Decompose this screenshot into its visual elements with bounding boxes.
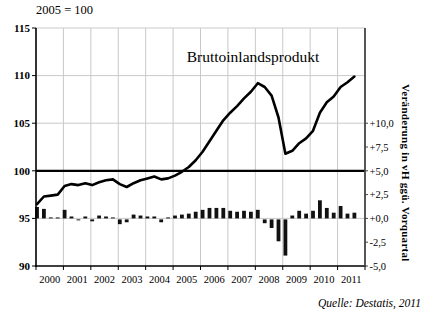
qoq-change-bar: [70, 216, 74, 218]
qoq-change-bar: [249, 212, 253, 219]
index-note: 2005 = 100: [36, 3, 93, 18]
qoq-change-bar: [132, 215, 136, 219]
year-tick-label: 2007: [231, 274, 252, 285]
qoq-change-bar: [256, 210, 260, 219]
year-tick-label: 2004: [149, 274, 171, 285]
qoq-change-bar: [194, 212, 198, 219]
qoq-change-bar: [152, 216, 156, 218]
qoq-change-bar: [277, 219, 281, 241]
year-tick-label: 2001: [67, 274, 88, 285]
year-tick-label: 2006: [204, 274, 225, 285]
qoq-change-bar: [42, 209, 46, 219]
year-tick-label: 2002: [94, 274, 115, 285]
left-tick-label: 95: [19, 212, 31, 224]
year-tick-label: 2005: [176, 274, 197, 285]
qoq-change-bar: [325, 208, 329, 218]
qoq-change-bar: [173, 216, 177, 219]
year-tick-label: 2011: [341, 274, 362, 285]
right-tick-label: +0,0: [370, 213, 389, 224]
qoq-change-bar: [63, 210, 67, 219]
right-axis-title: Veränderung in vH ggü. Vorquartal: [400, 84, 412, 300]
left-tick-label: 115: [14, 22, 30, 34]
qoq-change-bar: [104, 216, 108, 218]
left-tick-label: 105: [14, 117, 31, 129]
qoq-change-bar: [208, 208, 212, 218]
qoq-change-bar: [83, 216, 87, 218]
year-tick-label: 2000: [39, 274, 60, 285]
qoq-change-bar: [339, 206, 343, 218]
plot-svg: 2000200120022003200420052006200720082009…: [0, 0, 424, 310]
qoq-change-bar: [118, 219, 122, 224]
qoq-change-bar: [166, 217, 170, 218]
gdp-index-line: [37, 77, 354, 205]
qoq-change-bar: [228, 211, 232, 219]
right-tick-label: -2,5: [370, 237, 387, 248]
year-tick-label: 2008: [259, 274, 280, 285]
qoq-change-bar: [270, 219, 274, 228]
qoq-change-bar: [304, 214, 308, 219]
qoq-change-bar: [97, 216, 101, 219]
right-tick-label: +7,5: [370, 142, 389, 153]
qoq-change-bar: [297, 211, 301, 219]
year-tick-label: 2009: [286, 274, 307, 285]
right-tick-label: +2,5: [370, 189, 389, 200]
qoq-change-bar: [284, 219, 288, 255]
qoq-change-bar: [180, 215, 184, 219]
qoq-change-bar: [146, 216, 150, 218]
right-tick-label: +5,0: [370, 166, 389, 177]
source-note: Quelle: Destatis, 2011: [318, 297, 421, 309]
left-tick-label: 100: [14, 165, 31, 177]
qoq-change-bar: [111, 217, 115, 218]
qoq-change-bar: [353, 213, 357, 219]
qoq-change-bar: [263, 219, 267, 223]
qoq-change-bar: [139, 216, 143, 219]
left-tick-label: 110: [14, 69, 30, 81]
qoq-change-bar: [318, 200, 322, 218]
qoq-change-bar: [201, 210, 205, 219]
qoq-change-bar: [56, 217, 60, 218]
year-tick-label: 2010: [313, 274, 334, 285]
chart-title: Bruttoinlandsprodukt: [168, 48, 338, 66]
right-tick-label: -5,0: [370, 261, 387, 272]
qoq-change-bar: [215, 208, 219, 218]
qoq-change-bar: [332, 213, 336, 219]
qoq-change-bar: [159, 219, 163, 222]
year-tick-label: 2003: [121, 274, 142, 285]
qoq-change-bar: [346, 214, 350, 219]
qoq-change-bar: [235, 212, 239, 219]
right-tick-label: +10,0: [370, 118, 394, 129]
qoq-change-bar: [77, 219, 81, 220]
qoq-change-bar: [242, 211, 246, 219]
qoq-change-bar: [221, 208, 225, 218]
qoq-change-bar: [90, 219, 94, 221]
qoq-change-bar: [187, 214, 191, 219]
left-tick-label: 90: [19, 260, 31, 272]
qoq-change-bar: [290, 216, 294, 219]
qoq-change-bar: [125, 219, 129, 222]
qoq-change-bar: [311, 211, 315, 219]
qoq-change-bar: [49, 217, 53, 218]
gdp-chart: 2000200120022003200420052006200720082009…: [0, 0, 424, 310]
